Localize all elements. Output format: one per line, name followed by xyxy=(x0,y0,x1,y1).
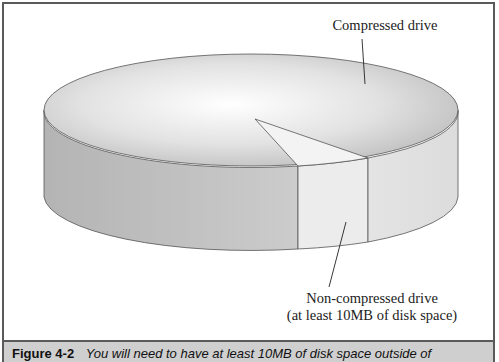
side-wall-noncompressed xyxy=(298,158,368,249)
disk-top xyxy=(44,54,458,166)
figure-caption: Figure 4-2 You will need to have at leas… xyxy=(2,342,495,362)
label-noncompressed-size: (at least 10MB of disk space) xyxy=(272,307,472,324)
label-noncompressed-drive: Non-compressed drive (at least 10MB of d… xyxy=(272,290,472,324)
label-compressed-drive: Compressed drive xyxy=(300,17,470,34)
caption-number: Figure 4-2 xyxy=(12,346,74,361)
caption-text: You will need to have at least 10MB of d… xyxy=(86,346,431,361)
label-noncompressed-title: Non-compressed drive xyxy=(272,290,472,307)
